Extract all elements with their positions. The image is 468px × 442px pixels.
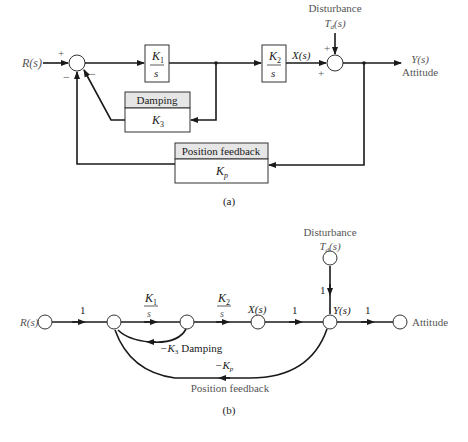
output-gain: 1 [365,304,371,316]
disturbance-gain: 1 [320,284,326,296]
sum1-sign-minus-left: − [63,70,70,84]
k1-denominator-b: s [147,308,151,319]
node-x [251,315,265,329]
node-y [323,315,337,329]
attitude-label-b: Attitude [412,316,448,328]
node-velocity [180,315,194,329]
caption-a: (a) [223,195,236,208]
k2-numerator-b: K2 [217,291,230,307]
damping-feedback-path [191,63,216,120]
node-r [38,315,52,329]
attitude-label: Attitude [402,66,438,78]
signal-flow-graph-b: Disturbance Td(s) 1 1 K1 s K2 s X(s) 1 Y… [19,226,448,417]
sum1-sign-minus-right: − [89,67,96,81]
block-diagram-a: R(s) + − − K1 s K2 s X(s) + Disturbance … [21,2,438,208]
y-of-s-node-label: Y(s) [333,304,351,317]
sum2-sign-plus-top: + [324,42,330,54]
input-gain: 1 [80,304,86,316]
position-loop-name: Position feedback [191,382,270,394]
k1-denominator: s [154,67,158,79]
summing-junction-2 [327,55,343,71]
y-of-s-label: Y(s) [411,53,429,66]
damping-loop-branch [118,329,186,342]
sum1-sign-plus: + [58,47,64,59]
position-header-label: Position feedback [182,145,261,157]
input-label-r-b: R(s) [19,316,39,329]
node-e [107,315,121,329]
sum2-sign-plus-left: + [318,67,324,79]
disturbance-title-b: Disturbance [303,226,356,238]
node-attitude [393,315,407,329]
caption-b: (b) [223,404,236,417]
k1-numerator-b: K1 [144,291,157,307]
disturbance-symbol: Td(s) [324,17,346,31]
figure: R(s) + − − K1 s K2 s X(s) + Disturbance … [0,0,468,442]
summing-junction-1 [69,55,85,71]
damping-header-label: Damping [137,94,178,106]
x-of-s-node-label: X(s) [247,303,267,316]
node-disturbance [323,251,337,265]
k2-denominator: s [271,67,275,79]
diagram-canvas: R(s) + − − K1 s K2 s X(s) + Disturbance … [0,0,468,442]
x-to-y-gain: 1 [292,304,298,316]
disturbance-title: Disturbance [308,2,361,14]
x-of-s-label: X(s) [291,49,311,62]
input-label-r: R(s) [21,56,42,70]
damping-loop-gain: −K3Damping [160,342,223,356]
k2-denominator-b: s [220,308,224,319]
position-loop-gain: −Kp [215,359,234,373]
